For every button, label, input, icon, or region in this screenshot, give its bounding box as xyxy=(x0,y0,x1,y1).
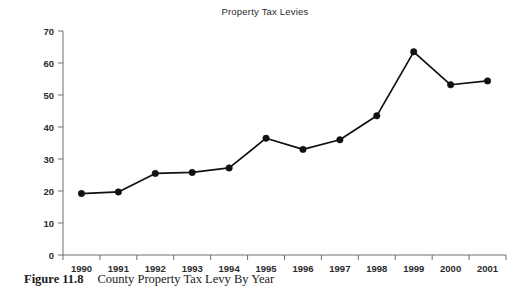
svg-text:60: 60 xyxy=(43,58,54,69)
svg-text:0: 0 xyxy=(49,250,54,261)
svg-text:1998: 1998 xyxy=(366,263,387,274)
svg-text:70: 70 xyxy=(43,26,54,37)
svg-text:50: 50 xyxy=(43,90,54,101)
y-axis-tick-marks xyxy=(58,31,63,255)
data-series-points xyxy=(78,49,490,197)
svg-text:30: 30 xyxy=(43,154,54,165)
svg-text:10: 10 xyxy=(43,218,54,229)
svg-text:20: 20 xyxy=(43,186,54,197)
svg-text:2001: 2001 xyxy=(477,263,499,274)
figure-caption-text: County Property Tax Levy By Year xyxy=(98,272,275,286)
figure-number: Figure 11.8 xyxy=(24,272,84,286)
svg-text:1999: 1999 xyxy=(403,263,424,274)
svg-text:40: 40 xyxy=(43,122,54,133)
figure-container: Property Tax Levies Property Tax Levies … xyxy=(0,0,530,294)
x-axis-tick-marks xyxy=(63,255,506,260)
data-series-line xyxy=(81,52,487,194)
figure-caption: Figure 11.8County Property Tax Levy By Y… xyxy=(24,272,274,287)
svg-text:2000: 2000 xyxy=(440,263,461,274)
svg-text:1997: 1997 xyxy=(329,263,350,274)
y-axis-tick-labels: 010203040506070 xyxy=(43,26,54,261)
svg-text:1996: 1996 xyxy=(292,263,313,274)
line-chart-plot: 010203040506070 199019911992199319941995… xyxy=(0,0,530,294)
